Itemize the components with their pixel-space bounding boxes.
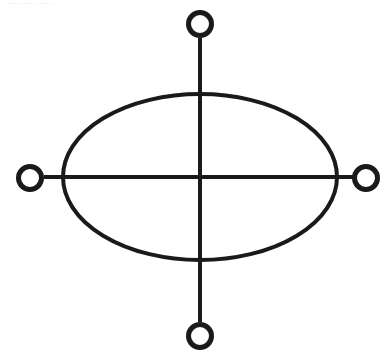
node-bottom [189, 325, 212, 348]
ellipse-node-diagram [0, 0, 389, 358]
node-right [355, 167, 378, 190]
node-top [189, 13, 212, 36]
node-left [19, 167, 42, 190]
axis-lines [44, 38, 353, 322]
figure-canvas: ·· ······ ········· ········ [0, 0, 389, 358]
